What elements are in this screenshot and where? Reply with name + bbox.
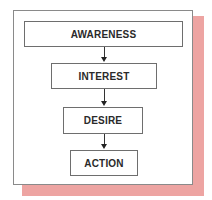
arrow-down-icon: [101, 144, 107, 149]
step-awareness: AWARENESS: [24, 21, 183, 47]
arrow-down-icon: [101, 101, 107, 106]
step-label: ACTION: [84, 158, 124, 169]
step-label: DESIRE: [84, 115, 122, 126]
step-action: ACTION: [70, 150, 138, 176]
step-desire: DESIRE: [63, 107, 143, 134]
arrow-down-icon: [101, 57, 107, 62]
step-label: AWARENESS: [71, 29, 137, 40]
step-label: INTEREST: [78, 71, 129, 82]
step-interest: INTEREST: [51, 63, 157, 89]
